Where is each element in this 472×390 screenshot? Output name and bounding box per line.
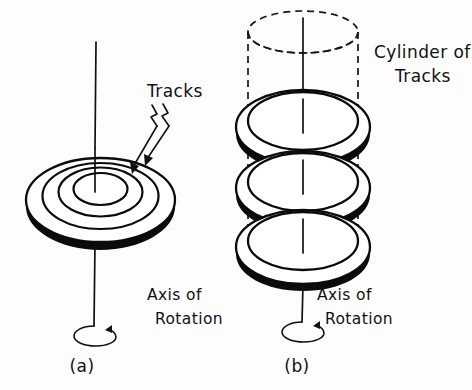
panel-b-platter-bottom [236, 210, 370, 291]
panel-b-axis-label-line2: Rotation [325, 310, 393, 328]
panel-a-axis-label-line2: Rotation [155, 310, 223, 328]
diagram-canvas: Tracks Axis of Rotation (a) [0, 0, 472, 390]
panel-a-tracks-label: Tracks [146, 81, 203, 101]
panel-b-axis-label-line1: Axis of [317, 286, 372, 304]
panel-a-axis-label-line1: Axis of [147, 286, 202, 304]
panel-b-axis-lower [302, 285, 303, 322]
panel-b-cylinder-label-line1: Cylinder of [374, 42, 471, 62]
panel-a-leader-arrow-2 [144, 126, 169, 166]
panel-b-group: Cylinder of Tracks Axis of Rotation (b) [236, 11, 471, 376]
panel-a-group: Tracks Axis of Rotation (a) [26, 42, 223, 376]
panel-a-leader-zigzag-right [162, 104, 169, 126]
panel-b-cylinder-label-line2: Tracks [394, 66, 451, 86]
panel-b-caption: (b) [284, 356, 309, 376]
figure-container: Tracks Axis of Rotation (a) [0, 0, 472, 390]
panel-a-leader-zigzag-left [151, 105, 157, 126]
panel-a-rotation-arrow-icon [74, 325, 116, 346]
panel-b-rotation-arrow-icon [282, 321, 324, 342]
panel-a-track-ring-inner [74, 173, 128, 205]
panel-a-caption: (a) [70, 356, 95, 376]
panel-a-axis-upper [95, 42, 96, 148]
panel-a-axis-lower [94, 244, 95, 326]
